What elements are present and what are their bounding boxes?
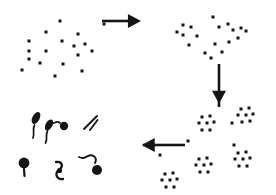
particle-dot [73,45,76,48]
particle-dot [212,16,215,19]
particle-dot [214,43,217,46]
cluster-dot [159,154,162,157]
cluster-dot [201,129,204,132]
cluster-dot [246,165,249,168]
cluster-dot [237,152,240,155]
cluster-dot [237,114,240,117]
particle-dot [227,23,230,26]
particle-dot [59,20,62,23]
cluster-dot [176,178,179,181]
cluster-dot [195,164,198,167]
particle-dot [240,27,243,30]
particle-dot [245,30,248,33]
cluster-dot [198,122,201,125]
particle-dot [204,52,207,55]
particle-dot [237,37,240,40]
cluster-dot [248,107,251,110]
flagellate-1-tail [33,125,35,138]
particle-dot [77,54,80,57]
particle-dot [45,50,48,53]
cluster-dot [245,151,248,154]
particle-dot [62,63,65,66]
particle-dot [28,58,31,61]
cluster-dot [206,122,209,125]
particle-dot [221,51,224,54]
figure-svg [0,0,276,195]
particle-dot [61,40,64,43]
cluster-dot [249,157,252,160]
flagellate-7-head [92,165,102,175]
particle-dot [196,35,199,38]
cluster-dot [242,158,245,161]
flagellate-5-tail [24,169,25,176]
flagellate-6-head [57,168,62,173]
cluster-dot [209,115,212,118]
cluster-dot [207,171,210,174]
cluster-dot [203,164,206,167]
particle-dot [28,50,31,53]
cluster-dot [249,120,252,123]
cluster-dot [209,129,212,132]
cluster-dot [165,186,168,189]
particle-dot [21,69,24,72]
cluster-dot [245,114,248,117]
cluster-dot [164,173,167,176]
particle-dot [28,40,31,43]
cluster-dot [240,108,243,111]
cluster-dot [187,140,190,143]
cluster-dot [173,186,176,189]
particle-dot [39,62,42,65]
particle-dot [84,43,87,46]
cluster-dot [198,158,201,161]
cluster-dot [252,113,255,116]
particle-dot [176,31,179,34]
flagellate-5-head [19,158,30,169]
particle-dot [210,57,213,60]
particle-dot [182,24,185,27]
particle-dot [188,44,191,47]
particle-dot [54,75,57,78]
cluster-dot [172,172,175,175]
cluster-dot [241,121,244,124]
cluster-dot [213,121,216,124]
particle-dot [232,29,235,32]
diagram-canvas [0,0,276,195]
cluster-dot [233,144,236,147]
cluster-dot [210,163,213,166]
cluster-dot [161,179,164,182]
cluster-dot [206,157,209,160]
cluster-dot [234,158,237,161]
particle-dot [91,50,94,53]
cluster-dot [199,171,202,174]
cluster-dot [238,165,241,168]
particle-dot [182,34,185,37]
particle-dot [77,33,80,36]
cluster-dot [201,116,204,119]
cluster-dot [231,122,234,125]
particle-dot [103,23,106,26]
figure-background [0,0,276,195]
particle-dot [81,70,84,73]
particle-dot [190,26,193,29]
particle-dot [228,41,231,44]
particle-dot [218,26,221,29]
particle-dot [45,31,48,34]
flagellate-3-head [60,122,68,130]
cluster-dot [169,179,172,182]
